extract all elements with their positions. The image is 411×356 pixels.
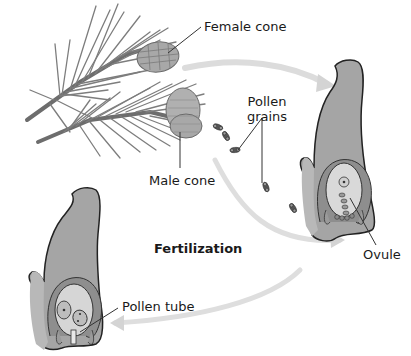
- label-fertilization: Fertilization: [154, 241, 242, 256]
- arrow-branch-to-ovule: [185, 62, 327, 84]
- label-pollen-grains-line1: Pollen: [240, 94, 294, 109]
- fertilized-ovule-illustration: [29, 188, 103, 350]
- label-pollen-grains: Pollen grains: [240, 94, 294, 124]
- pine-branch-illustration: [27, 4, 205, 158]
- leader-female-cone: [168, 27, 201, 53]
- ovule-illustration: [300, 60, 374, 241]
- label-male-cone: Male cone: [149, 173, 215, 188]
- label-female-cone: Female cone: [204, 19, 286, 34]
- leader-pollen-grains: [238, 118, 262, 183]
- label-pollen-grains-line2: grains: [240, 109, 294, 124]
- label-pollen-tube: Pollen tube: [122, 299, 195, 314]
- label-ovule: Ovule: [363, 247, 401, 262]
- pollen-grains-illustration: [212, 123, 297, 214]
- arrow-fertilization-return: [115, 270, 300, 323]
